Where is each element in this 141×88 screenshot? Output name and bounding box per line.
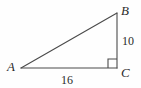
right-triangle-figure: A B C 10 16 bbox=[0, 0, 141, 88]
side-length-label-ac: 16 bbox=[61, 74, 73, 86]
vertex-label-a: A bbox=[7, 60, 15, 73]
side-ab-hypotenuse-line bbox=[21, 13, 117, 68]
right-angle-marker-icon bbox=[108, 59, 117, 68]
side-length-label-bc: 10 bbox=[122, 35, 134, 47]
vertex-label-c: C bbox=[121, 66, 130, 79]
vertex-label-b: B bbox=[121, 4, 129, 17]
